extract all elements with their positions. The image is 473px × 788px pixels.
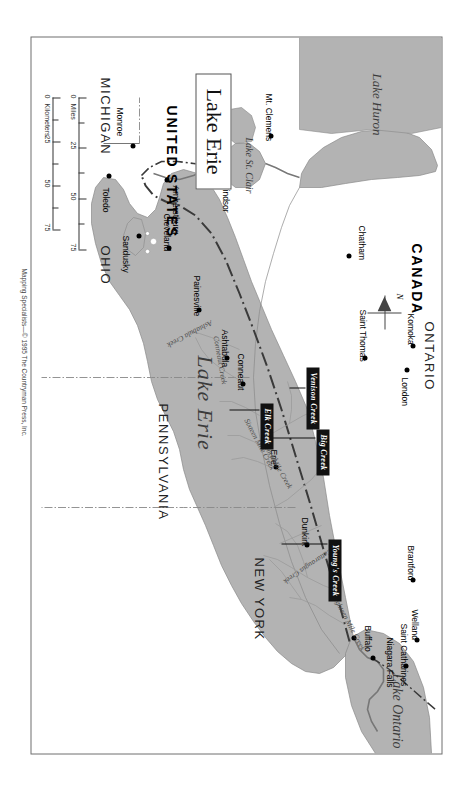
city-dot-niagara-falls: [370, 655, 375, 660]
city-label-conneaut: Conneaut: [236, 353, 245, 390]
compass-north-arrow: [377, 295, 391, 311]
scale-miles-tick: [78, 249, 86, 250]
city-label-welland: Welland: [410, 609, 419, 640]
scale-km-value: 75: [43, 223, 50, 231]
city-label-monroe: Monroe: [115, 107, 124, 136]
callout-big-creek[interactable]: Big Creek: [316, 429, 329, 475]
scale-miles-value: 75: [69, 243, 76, 251]
callout-youngs-creek[interactable]: Young's Creek: [328, 539, 341, 601]
scale-km-value: 50: [43, 179, 50, 187]
city-label-dunkirk: Dunkirk: [300, 517, 309, 546]
map-title-box: Lake Erie: [195, 73, 231, 189]
lake-huron-polygon: [299, 129, 437, 187]
scale-miles-label: Miles: [69, 103, 76, 119]
map-title: Lake Erie: [201, 88, 226, 174]
compass-label-north: N: [394, 293, 403, 299]
waterbody-label-lake-erie: Lake Erie: [193, 355, 215, 450]
scale-miles-tick: [78, 223, 84, 224]
map-neatline: Niagara Falls Buffalo Saint Catharines W…: [30, 36, 442, 754]
scale-km-tick: [52, 207, 58, 208]
compass-rose: N: [365, 295, 401, 331]
state-label-ohio: OHIO: [98, 245, 111, 285]
scale-km-value: 0: [43, 94, 50, 98]
callout-leader-elk-creek: [229, 409, 259, 410]
state-label-new-york: NEW YORK: [252, 557, 265, 640]
callout-elk-creek[interactable]: Elk Creek: [260, 403, 273, 449]
scale-bar: 0 25 50 75 Miles 0 25 50 75 Kilometers: [41, 83, 89, 263]
state-label-michigan: MICHIGAN: [98, 77, 111, 155]
waterbody-label-lake-ontario: Lake Ontario: [389, 673, 403, 748]
state-label-ontario: ONTARIO: [422, 321, 435, 390]
scale-km-tick: [52, 97, 60, 98]
scale-km-tick: [52, 119, 58, 120]
scale-km-tick: [52, 141, 60, 142]
callout-venison-creek[interactable]: Venison Creek: [306, 367, 319, 429]
city-dot-chatham: [346, 253, 351, 258]
city-dot-sandusky: [136, 233, 141, 238]
scale-miles-tick: [78, 198, 86, 199]
scale-miles-value: 50: [69, 192, 76, 200]
scale-miles-value: 0: [69, 94, 76, 98]
city-label-chatham: Chatham: [357, 225, 366, 260]
scale-km-label: Kilometers: [43, 103, 50, 136]
scale-miles-tick: [78, 172, 84, 173]
map-page: Niagara Falls Buffalo Saint Catharines W…: [0, 0, 473, 788]
city-dot-london: [404, 367, 409, 372]
scale-miles-tick: [78, 147, 86, 148]
state-label-pennsylvania: PENNSYLVANIA: [156, 403, 169, 520]
city-label-toledo: Toledo: [101, 187, 110, 212]
scale-miles-tick: [78, 122, 84, 123]
rotation-wrapper: Niagara Falls Buffalo Saint Catharines W…: [0, 0, 473, 788]
city-label-mt-clemens: Mt. Clemens: [264, 93, 273, 141]
city-label-brantford: Brantford: [406, 545, 415, 580]
scale-km-tick: [52, 185, 60, 186]
st-clair-river: [265, 163, 299, 177]
city-label-komoka: Komoka: [406, 313, 415, 344]
waterbody-label-lake-st-clair: Lake St. Clair: [243, 137, 253, 193]
scale-km-tick: [52, 163, 58, 164]
city-dot-monroe: [130, 143, 135, 148]
map-credit: Mapping Specialists—© 1995 The Countryma…: [20, 268, 27, 436]
callout-leader-youngs-creek: [281, 543, 327, 544]
scale-miles-value: 25: [69, 141, 76, 149]
city-label-painesville: Painesville: [192, 275, 201, 316]
waterbody-label-lake-huron: Lake Huron: [370, 73, 383, 135]
map-geometry: [31, 37, 441, 753]
map-canvas: Niagara Falls Buffalo Saint Catharines W…: [15, 18, 458, 770]
city-dot-toledo: [106, 173, 111, 178]
scale-km-tick: [52, 229, 60, 230]
callout-leader-venison-creek: [289, 387, 305, 388]
city-label-sandusky: Sandusky: [121, 235, 130, 272]
scale-miles-tick: [78, 97, 86, 98]
country-label-canada: CANADA: [409, 243, 423, 314]
city-label-london: London: [400, 377, 409, 405]
country-label-united-states: UNITED STATES: [163, 105, 179, 238]
